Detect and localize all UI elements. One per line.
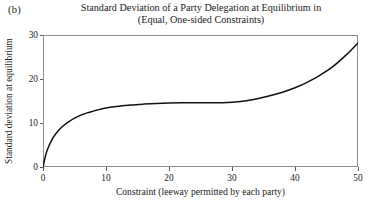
y-tick-mark (40, 123, 44, 124)
y-tick-mark (40, 35, 44, 36)
x-tick-label: 30 (227, 173, 236, 183)
x-tick-label: 40 (290, 173, 299, 183)
x-tick-label: 10 (101, 173, 110, 183)
chart-title-line-2: (Equal, One-sided Constraints) (46, 14, 356, 26)
line-series-path (43, 43, 358, 167)
y-tick-label: 10 (29, 118, 38, 128)
x-tick-mark (295, 167, 296, 171)
line-series-svg (43, 35, 358, 167)
y-tick-label: 20 (29, 74, 38, 84)
x-tick-label: 50 (353, 173, 362, 183)
x-tick-mark (358, 167, 359, 171)
x-tick-mark (106, 167, 107, 171)
y-axis-label: Standard deviation at equilibrium (2, 35, 15, 167)
x-tick-label: 20 (164, 173, 173, 183)
x-tick-label: 0 (41, 173, 46, 183)
x-axis-label: Constraint (leeway permitted by each par… (43, 186, 358, 197)
chart-title: Standard Deviation of a Party Delegation… (46, 2, 356, 27)
x-tick-mark (169, 167, 170, 171)
plot-area: 010203001020304050 (43, 35, 358, 167)
x-tick-mark (43, 167, 44, 171)
y-axis-label-text: Standard deviation at equilibrium (4, 38, 14, 164)
x-tick-mark (232, 167, 233, 171)
y-tick-label: 0 (33, 162, 38, 172)
y-tick-label: 30 (29, 30, 38, 40)
chart-title-line-1: Standard Deviation of a Party Delegation… (46, 2, 356, 14)
x-axis-label-text: Constraint (leeway permitted by each par… (116, 186, 285, 197)
panel-label: (b) (8, 4, 21, 15)
y-tick-mark (40, 79, 44, 80)
chart-figure: (b) Standard Deviation of a Party Delega… (0, 0, 372, 205)
